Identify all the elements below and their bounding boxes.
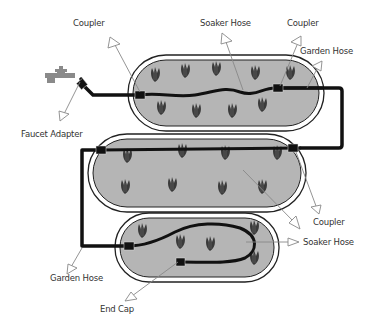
faucet-icon — [45, 66, 75, 83]
label-end-cap: End Cap — [100, 304, 134, 314]
coupler-middle-right — [288, 144, 298, 152]
label-soaker-hose-top: Soaker Hose — [200, 18, 251, 28]
coupler-top-left — [135, 91, 145, 99]
label-coupler-top-left: Coupler — [73, 18, 105, 28]
label-garden-hose-top-right: Garden Hose — [300, 46, 353, 56]
label-faucet-adapter: Faucet Adapter — [21, 129, 83, 139]
label-coupler-top-right: Coupler — [287, 18, 319, 28]
coupler-bottom-left — [124, 242, 134, 250]
coupler-top-right — [273, 84, 283, 92]
label-coupler-middle-right: Coupler — [313, 217, 345, 227]
label-soaker-hose-bottom-right: Soaker Hose — [303, 237, 354, 247]
label-garden-hose-bottom-left: Garden Hose — [50, 273, 103, 283]
coupler-middle-left — [96, 146, 106, 154]
